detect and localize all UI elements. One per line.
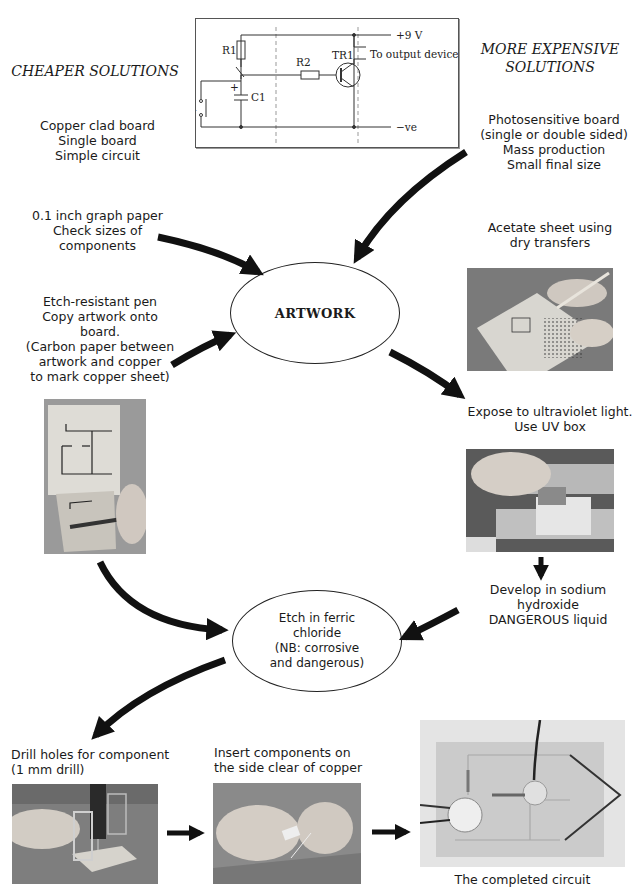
insert-components-label: Insert components on the side clear of c… — [214, 745, 404, 775]
completed-circuit-label: The completed circuit — [420, 872, 625, 887]
acetate-sheet-note: Acetate sheet using dry transfers — [470, 220, 630, 250]
photo-etch-resistant-pen — [44, 399, 146, 554]
circuit-schematic: +9 V To output device −ve R1 R2 TR1 S1 C… — [195, 18, 459, 148]
more-expensive-solutions-heading: MORE EXPENSIVE SOLUTIONS — [470, 40, 630, 76]
develop-sodium-hydroxide-note: Develop in sodium hydroxide DANGEROUS li… — [458, 582, 638, 627]
svg-text:R2: R2 — [296, 56, 311, 68]
expose-uv-note: Expose to ultraviolet light. Use UV box — [460, 404, 638, 434]
copper-clad-board-note: Copper clad board Single board Simple ci… — [20, 118, 175, 163]
svg-text:C1: C1 — [251, 91, 266, 103]
photo-completed-circuit — [420, 720, 625, 867]
svg-text:+: + — [230, 81, 239, 93]
svg-text:To output device: To output device — [370, 48, 458, 60]
etch-node: Etch in ferric chloride (NB: corrosive a… — [232, 590, 402, 692]
svg-text:+9 V: +9 V — [396, 29, 423, 41]
svg-text:TR1: TR1 — [332, 49, 354, 61]
svg-text:−ve: −ve — [396, 121, 417, 133]
schematic-drawing: +9 V To output device −ve R1 R2 TR1 S1 C… — [196, 19, 458, 147]
photo-uv-box — [466, 449, 614, 552]
arrow-develop-to-etch — [405, 610, 458, 637]
photo-acetate-dry-transfers — [467, 268, 613, 371]
photo-inserting-components — [213, 783, 361, 884]
photo-drilling — [12, 784, 158, 884]
arrow-etch-to-drill — [96, 660, 225, 735]
etch-resistant-pen-note: Etch-resistant pen Copy artwork onto boa… — [10, 294, 190, 384]
arrow-photosensitive-to-artwork — [357, 152, 466, 258]
svg-text:S1: S1 — [196, 101, 198, 113]
photosensitive-board-note: Photosensitive board (single or double s… — [470, 112, 638, 172]
graph-paper-note: 0.1 inch graph paper Check sizes of comp… — [20, 208, 175, 253]
cheaper-solutions-heading: CHEAPER SOLUTIONS — [10, 62, 180, 80]
svg-text:R1: R1 — [222, 44, 237, 56]
arrow-artwork-to-expose — [390, 352, 460, 395]
arrow-photo-to-etch — [100, 562, 222, 630]
artwork-node: ARTWORK — [230, 262, 400, 364]
drill-holes-label: Drill holes for component (1 mm drill) — [11, 747, 201, 777]
etch-label: Etch in ferric chloride (NB: corrosive a… — [270, 611, 365, 671]
artwork-label: ARTWORK — [275, 306, 355, 321]
